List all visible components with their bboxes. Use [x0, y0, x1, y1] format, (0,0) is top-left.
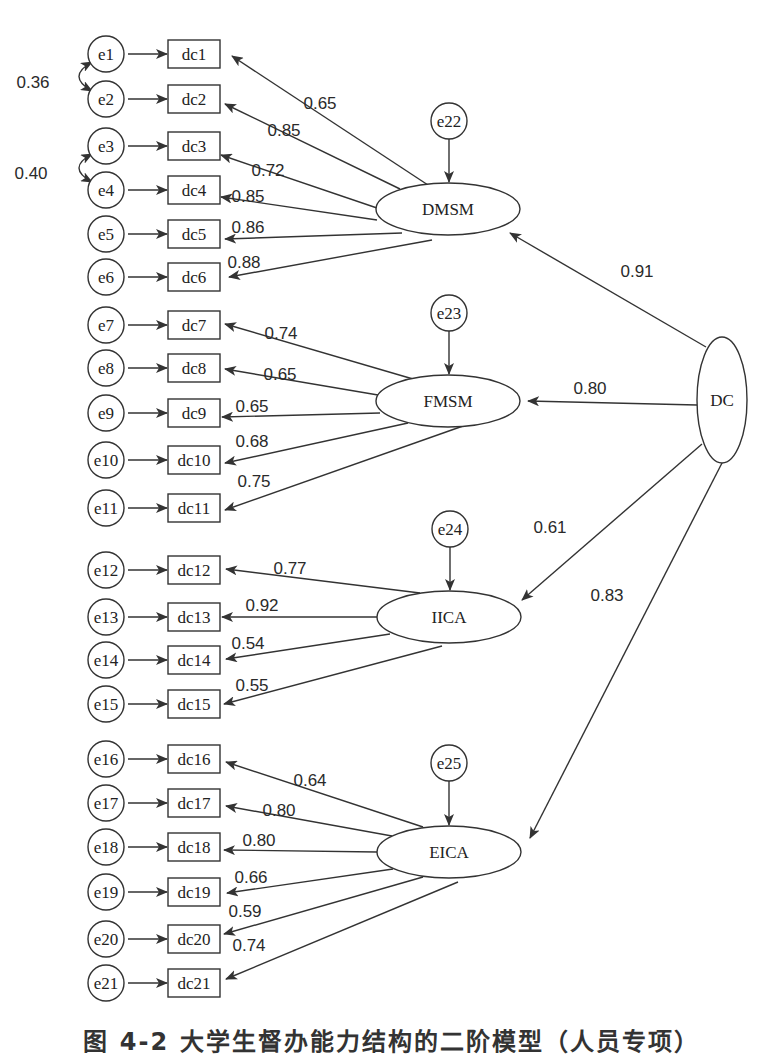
loading-path-dc18 — [224, 850, 377, 852]
disturbance-label: e24 — [438, 520, 463, 539]
indicator-label: dc6 — [182, 268, 207, 287]
nodes-layer: e1dc1e2dc2e3dc3e4dc4e5dc5e6dc6e7dc7e8dc8… — [88, 36, 747, 1001]
second-order-coefficient: 0.83 — [590, 586, 623, 605]
indicator-label: dc10 — [177, 451, 210, 470]
loading-coefficient: 0.65 — [235, 397, 268, 416]
disturbance-label: e25 — [437, 754, 462, 773]
covariance-path — [79, 154, 92, 182]
latent-factor-label: FMSM — [423, 392, 472, 411]
loading-coefficient: 0.74 — [264, 324, 297, 343]
error-term-label: e2 — [98, 90, 114, 109]
latent-factor-label: EICA — [429, 843, 469, 862]
error-term-label: e19 — [94, 883, 119, 902]
indicator-label: dc18 — [177, 838, 210, 857]
error-term-label: e20 — [94, 930, 119, 949]
indicator-label: dc12 — [177, 561, 210, 580]
error-term-label: e5 — [98, 225, 114, 244]
indicator-label: dc2 — [182, 90, 207, 109]
loading-coefficient: 0.74 — [232, 936, 265, 955]
error-term-label: e10 — [94, 451, 119, 470]
loading-coefficient: 0.77 — [273, 559, 306, 578]
error-term-label: e8 — [98, 359, 114, 378]
error-term-label: e12 — [94, 561, 119, 580]
second-order-coefficient: 0.61 — [533, 518, 566, 537]
loading-coefficient: 0.86 — [231, 218, 264, 237]
indicator-label: dc1 — [182, 45, 207, 64]
error-term-label: e16 — [94, 750, 119, 769]
indicator-label: dc13 — [177, 608, 210, 627]
covariance-coefficient: 0.40 — [14, 164, 47, 183]
indicator-label: dc11 — [178, 499, 210, 518]
latent-factor-label: DMSM — [422, 200, 474, 219]
error-term-label: e18 — [94, 838, 119, 857]
loading-coefficient: 0.65 — [303, 94, 336, 113]
covariance-coefficient: 0.36 — [16, 73, 49, 92]
indicator-label: dc21 — [177, 974, 210, 993]
indicator-label: dc3 — [182, 137, 207, 156]
second-order-path-DMSM — [510, 233, 706, 347]
error-term-label: e13 — [94, 608, 119, 627]
indicator-label: dc16 — [177, 750, 210, 769]
loading-coefficient: 0.92 — [245, 596, 278, 615]
loading-coefficient: 0.65 — [263, 365, 296, 384]
loading-coefficient: 0.85 — [267, 121, 300, 140]
error-term-label: e9 — [98, 404, 114, 423]
indicator-label: dc5 — [182, 225, 207, 244]
second-order-path-FMSM — [528, 401, 697, 405]
loading-coefficient: 0.80 — [262, 801, 295, 820]
loading-path-dc7 — [225, 324, 413, 379]
indicator-label: dc14 — [177, 651, 211, 670]
loading-coefficient: 0.80 — [242, 831, 275, 850]
error-term-label: e21 — [94, 974, 119, 993]
second-order-factor-label: DC — [710, 391, 734, 410]
figure-caption: 图 4-2 大学生督办能力结构的二阶模型（人员专项） — [0, 1022, 783, 1057]
indicator-label: dc17 — [177, 794, 211, 813]
second-order-coefficient: 0.91 — [620, 262, 653, 281]
indicator-label: dc7 — [182, 316, 207, 335]
indicator-label: dc9 — [182, 404, 207, 423]
second-order-coefficient: 0.80 — [573, 379, 606, 398]
error-term-label: e6 — [98, 268, 114, 287]
loading-coefficient: 0.54 — [231, 634, 264, 653]
error-term-label: e15 — [94, 695, 119, 714]
error-term-label: e3 — [98, 137, 114, 156]
loading-coefficient: 0.55 — [235, 676, 268, 695]
latent-factor-label: IICA — [432, 608, 468, 627]
error-term-label: e7 — [98, 316, 115, 335]
loading-coefficient: 0.75 — [237, 472, 270, 491]
disturbance-label: e22 — [437, 112, 462, 131]
covariance-path — [79, 62, 92, 91]
indicator-label: dc4 — [182, 181, 207, 200]
indicator-label: dc15 — [177, 695, 210, 714]
loading-coefficient: 0.88 — [227, 253, 260, 272]
loading-coefficient: 0.59 — [228, 902, 261, 921]
indicator-label: dc19 — [177, 883, 210, 902]
disturbance-label: e23 — [437, 304, 462, 323]
loading-coefficient: 0.66 — [234, 868, 267, 887]
loading-coefficient: 0.68 — [235, 432, 268, 451]
error-term-label: e11 — [94, 499, 118, 518]
loading-path-dc21 — [226, 882, 458, 979]
loading-coefficient: 0.72 — [251, 161, 284, 180]
loading-coefficient: 0.85 — [231, 187, 264, 206]
loading-coefficient: 0.64 — [293, 771, 326, 790]
error-term-label: e17 — [94, 794, 119, 813]
error-term-label: e1 — [98, 45, 114, 64]
error-term-label: e4 — [98, 181, 115, 200]
error-term-label: e14 — [94, 651, 119, 670]
loading-path-dc8 — [225, 369, 378, 395]
indicator-label: dc8 — [182, 359, 207, 378]
loading-path-dc12 — [226, 569, 420, 593]
indicator-label: dc20 — [177, 930, 210, 949]
